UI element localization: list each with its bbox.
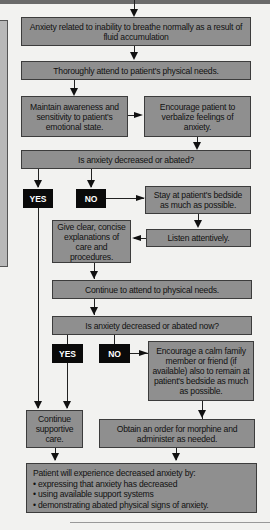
arrow-down-icon (193, 142, 201, 150)
top-border-bar (0, 0, 270, 4)
arrow-down-icon (63, 401, 71, 409)
outcome-box: Patient will experience decreased anxiet… (26, 463, 257, 513)
supportive-box: Continue supportive care. (26, 410, 83, 448)
arrow-down-icon (130, 9, 138, 17)
arrow-left-icon (132, 235, 141, 241)
stay-bedside-text: Stay at patient's bedside as much as pos… (149, 190, 247, 210)
attend-needs-box: Thoroughly attend to patient's physical … (21, 61, 251, 80)
continue-needs-text: Continue to attend to physical needs. (85, 285, 219, 295)
explain-box: Give clear, concise explanations of care… (52, 220, 131, 263)
no1-label: NO (76, 189, 106, 208)
outcome-item: • expressing that anxiety has decreased (33, 479, 209, 490)
problem-text: Anxiety related to inability to breathe … (25, 22, 247, 42)
arrow-down-icon (130, 52, 138, 60)
problem-box: Anxiety related to inability to breathe … (21, 17, 251, 46)
listen-box: Listen attentively. (146, 229, 251, 247)
morphine-text: Obtain an order for morphine and adminis… (103, 424, 251, 444)
page-edge-line (70, 522, 270, 523)
stay-bedside-box: Stay at patient's bedside as much as pos… (145, 186, 251, 214)
connector (114, 335, 115, 344)
yes2-text: YES (59, 349, 76, 359)
arrow-down-icon (34, 401, 42, 409)
outcome-item: • demonstrating abated physical signs of… (33, 500, 209, 511)
yes1-label: YES (23, 189, 53, 208)
outcome-item: • using available support systems (33, 489, 209, 500)
question2-text: Is anxiety decreased or abated now? (85, 321, 218, 331)
arrow-down-icon (194, 220, 202, 228)
outcome-title: Patient will experience decreased anxiet… (33, 468, 209, 479)
yes1-text: YES (29, 194, 46, 204)
no1-text: NO (85, 194, 98, 204)
arrow-down-icon (90, 271, 98, 279)
arrow-down-icon (198, 410, 206, 418)
adjacent-panel-edge (0, 20, 8, 267)
verbalize-box: Encourage patient to verbalize feelings … (144, 96, 251, 137)
arrow-down-icon (34, 180, 42, 188)
morphine-box: Obtain an order for morphine and adminis… (99, 419, 255, 448)
verbalize-text: Encourage patient to verbalize feelings … (148, 102, 247, 132)
arrow-down-icon (70, 88, 78, 96)
awareness-text: Maintain awareness and sensitivity to pa… (25, 102, 124, 132)
question2-box: Is anxiety decreased or abated now? (52, 316, 252, 335)
awareness-box: Maintain awareness and sensitivity to pa… (21, 96, 128, 137)
arrow-right-icon (139, 350, 148, 356)
listen-text: Listen attentively. (168, 233, 230, 243)
arrow-down-icon (172, 453, 180, 461)
arrow-down-icon (90, 307, 98, 315)
arrow-down-icon (87, 180, 95, 188)
arrow-right-icon (136, 195, 145, 201)
family-box: Encourage a calm family member or friend… (148, 341, 254, 401)
connector (67, 335, 68, 344)
connector (38, 208, 39, 408)
yes2-label: YES (52, 344, 83, 363)
supportive-text: Continue supportive care. (30, 414, 79, 444)
attend-needs-text: Thoroughly attend to patient's physical … (53, 66, 218, 76)
no2-text: NO (108, 349, 121, 359)
arrow-right-icon (134, 112, 143, 118)
explain-text: Give clear, concise explanations of care… (56, 222, 127, 262)
no2-label: NO (99, 344, 130, 363)
arrow-down-icon (51, 453, 59, 461)
question1-text: Is anxiety decreased or abated? (78, 155, 194, 165)
continue-needs-box: Continue to attend to physical needs. (52, 280, 252, 299)
question1-box: Is anxiety decreased or abated? (21, 150, 251, 169)
family-text: Encourage a calm family member or friend… (152, 346, 250, 396)
